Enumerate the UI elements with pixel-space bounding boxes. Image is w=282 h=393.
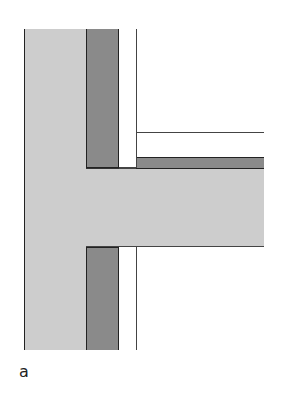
diagram: a xyxy=(0,0,282,393)
wall-insulation-upper xyxy=(86,29,119,168)
cavity-line-lower xyxy=(136,247,138,350)
horizontal-slab xyxy=(86,168,264,247)
figure-label: a xyxy=(19,362,29,381)
vertical-wall xyxy=(24,29,86,350)
floor-finish-line xyxy=(136,132,264,134)
cavity-line-upper xyxy=(136,29,138,168)
slab-insulation xyxy=(136,157,264,169)
wall-insulation-lower xyxy=(86,247,119,350)
cavity-bottom-line xyxy=(119,167,136,169)
